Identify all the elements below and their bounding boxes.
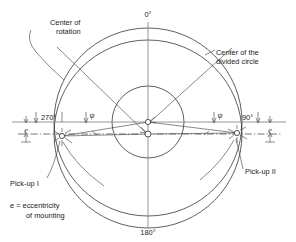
psi-arrow-left xyxy=(84,112,88,123)
callout-center-of-divided-circle-line1: Center of the xyxy=(216,48,259,57)
symbol-psi-left: ψ xyxy=(90,111,96,120)
psi-arrow-right xyxy=(212,112,216,123)
sightline-divided-to-pickup-two xyxy=(148,122,237,133)
callout-center-of-rotation-line1: Center of xyxy=(50,18,81,27)
eccentricity-diagram: 0° 180° 270° 90° Center of rotation Cent… xyxy=(0,0,296,242)
angle-label-left: 270° xyxy=(41,113,56,122)
symbol-psi-right: ψ xyxy=(218,111,224,120)
callout-center-of-divided-circle-line2: divided circle xyxy=(216,57,259,66)
tick-arrow-left-270 xyxy=(34,112,38,123)
legend-line2: of mounting xyxy=(26,211,65,220)
leader-curve-center-of-rotation xyxy=(29,30,64,80)
callout-center-of-rotation-line2: rotation xyxy=(56,27,81,36)
leader-center-of-rotation xyxy=(57,47,146,133)
angle-tick-right xyxy=(204,131,209,135)
angle-label-top: 0° xyxy=(144,10,151,19)
symbol-eccentricity-left: e xyxy=(24,126,28,135)
leader-pickup-one xyxy=(47,141,60,178)
callout-pickup-two: Pick-up II xyxy=(245,167,276,176)
diagram-canvas: 0° 180° 270° 90° Center of rotation Cent… xyxy=(0,0,296,242)
angle-label-bottom: 180° xyxy=(140,228,155,237)
angle-label-right: 90° xyxy=(242,113,253,122)
callout-pickup-one: Pick-up I xyxy=(10,179,39,188)
center-of-rotation-marker xyxy=(145,131,151,137)
leader-curve-pickup-one-secondary xyxy=(63,142,104,186)
tick-arrow-right-90 xyxy=(256,112,260,123)
symbol-eccentricity-right: e xyxy=(268,126,272,135)
angle-tick-left xyxy=(92,131,97,135)
leader-curve-pickup-two-secondary xyxy=(200,140,234,180)
center-of-divided-circle-marker xyxy=(145,119,150,124)
pickup-two-marker xyxy=(228,125,247,143)
legend-line1: e = eccentricity xyxy=(10,201,60,210)
